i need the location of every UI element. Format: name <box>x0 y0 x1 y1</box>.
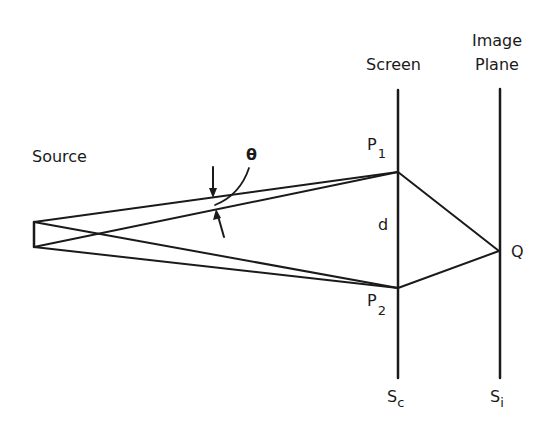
theta-arrow-bottom <box>218 216 224 237</box>
sc-label: Sc <box>387 389 404 405</box>
p2-sub: 2 <box>378 303 386 318</box>
image-plane-label-line1: Image <box>472 33 522 49</box>
ray-p1-to-q <box>398 172 499 251</box>
p1-label: P1 <box>367 137 385 153</box>
q-label: Q <box>511 244 524 260</box>
d-label: d <box>378 217 388 233</box>
ray-p2-to-q <box>398 251 499 288</box>
screen-label: Screen <box>366 57 421 73</box>
image-plane-label-line2: Plane <box>475 57 519 73</box>
p2-label: P2 <box>367 293 385 309</box>
sc-sub: c <box>397 395 404 410</box>
si-main: S <box>490 387 500 406</box>
p2-main: P <box>367 291 377 310</box>
theta-label: θ <box>246 147 257 163</box>
si-sub: i <box>500 395 504 410</box>
sc-main: S <box>387 387 397 406</box>
ray-bottom-to-p2 <box>34 247 398 288</box>
ray-top-to-p2 <box>34 222 398 288</box>
theta-leader-curve <box>215 168 249 205</box>
p1-sub: 1 <box>378 146 386 161</box>
si-label: Si <box>490 389 504 405</box>
optics-diagram <box>0 0 553 435</box>
p1-main: P <box>367 135 377 154</box>
source-label: Source <box>32 149 87 165</box>
